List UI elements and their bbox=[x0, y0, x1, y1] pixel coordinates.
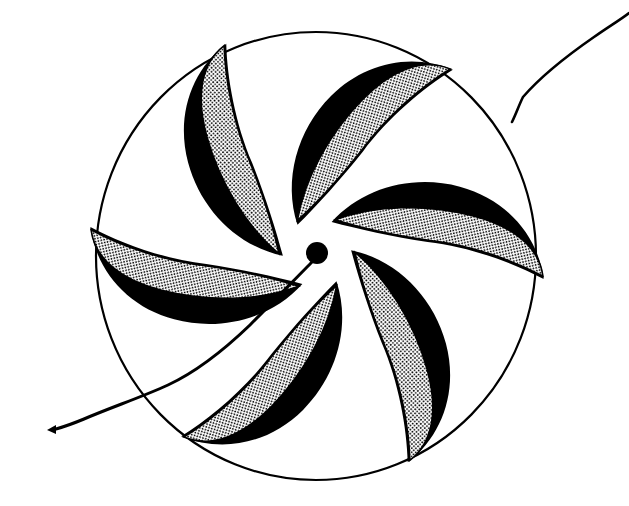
blade-3 bbox=[344, 250, 455, 463]
blade-5 bbox=[70, 173, 303, 372]
hanger-string bbox=[512, 13, 629, 122]
pinwheel-diagram bbox=[0, 0, 629, 506]
figure-canvas: Pinwheel with six crescent blades on a s… bbox=[0, 0, 629, 506]
center-hub bbox=[306, 242, 328, 264]
string-tip-icon bbox=[47, 425, 56, 434]
blade-2 bbox=[332, 134, 565, 333]
blade-6 bbox=[180, 42, 291, 255]
